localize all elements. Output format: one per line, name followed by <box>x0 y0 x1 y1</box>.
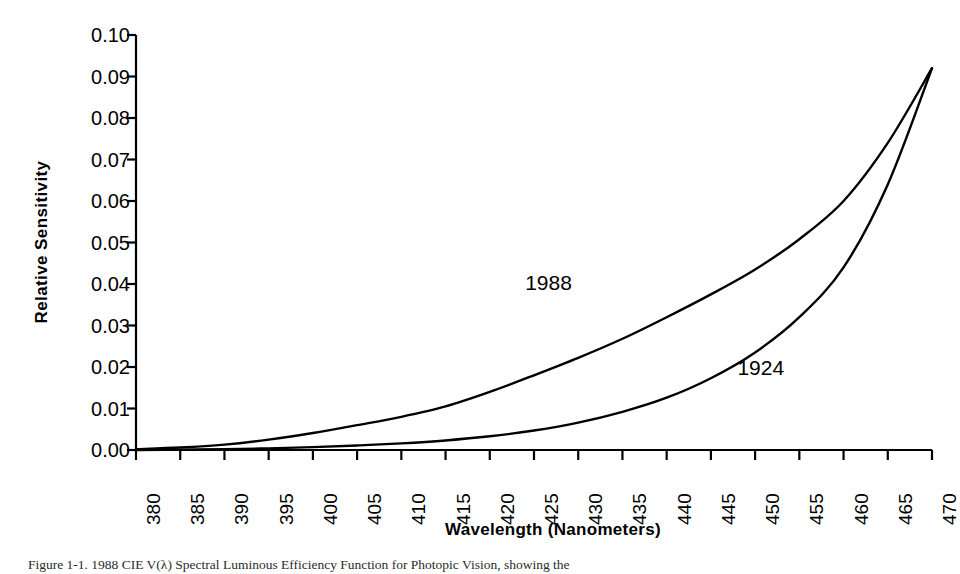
figure-caption: Figure 1-1. 1988 CIE V(λ) Spectral Lumin… <box>28 556 928 574</box>
x-axis-title: Wavelength (Nanometers) <box>0 520 956 540</box>
series-label-1924: 1924 <box>737 357 784 378</box>
series-label-1988: 1988 <box>525 272 572 293</box>
x-axis-title-text: Wavelength (Nanometers) <box>445 520 661 540</box>
